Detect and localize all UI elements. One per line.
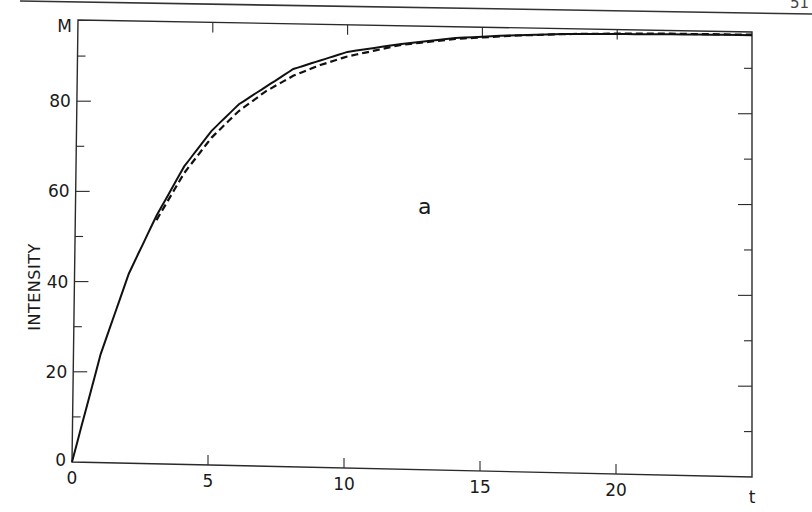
panel-label: a: [418, 194, 431, 219]
page-number: 51: [790, 0, 809, 12]
x-tick-label: 20: [605, 480, 627, 500]
ticks: [73, 22, 752, 474]
y-tick-label: 20: [46, 362, 68, 382]
y-max-label: M: [57, 16, 72, 36]
series-group: [72, 34, 752, 462]
axes: [72, 20, 752, 477]
y-tick-label: 60: [48, 181, 70, 201]
x-tick-label: 0: [67, 468, 78, 488]
x-tick-label: 5: [203, 471, 214, 491]
page-header-rule: [20, 1, 812, 14]
dashed-curve: [157, 34, 753, 220]
solid-curve: [72, 34, 752, 462]
y-tick-label: 80: [49, 91, 71, 111]
chart: 51 05101520t020406080M INTENSITY a: [0, 0, 812, 512]
x-tick-label: 15: [469, 477, 491, 497]
plot-canvas: 51 05101520t020406080M INTENSITY a: [0, 0, 812, 512]
tick-labels: 05101520t020406080M: [46, 16, 756, 507]
x-tick-label: 10: [333, 474, 355, 494]
plot-frame: [72, 20, 752, 477]
y-tick-label: 0: [55, 450, 66, 470]
y-axis-label: INTENSITY: [25, 243, 44, 330]
y-tick-label: 40: [47, 272, 69, 292]
x-axis-label: t: [749, 487, 756, 507]
